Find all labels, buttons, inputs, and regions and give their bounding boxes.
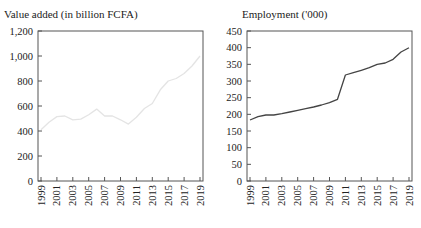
x-tick-label: 2005 [83, 185, 94, 206]
employment-chart: Employment ('000) 0501001502002503003504… [210, 0, 420, 228]
x-tick-label: 2009 [115, 185, 126, 206]
plot-frame [38, 31, 203, 181]
x-tick-label: 2007 [99, 185, 110, 206]
x-tick-label: 2011 [340, 185, 351, 206]
x-tick-label: 2003 [276, 185, 287, 206]
x-tick-label: 2017 [388, 185, 399, 206]
x-tick-label: 2011 [131, 185, 142, 206]
y-tick-label: 400 [226, 42, 242, 53]
y-tick-label: 0 [237, 176, 242, 187]
y-tick-label: 200 [17, 151, 33, 162]
y-tick-label: 250 [226, 92, 242, 103]
y-tick-label: 1,200 [9, 26, 33, 37]
x-tick-label: 2003 [67, 185, 78, 206]
y-tick-label: 450 [226, 26, 242, 37]
x-tick-label: 1999 [245, 185, 256, 206]
employment-plot: 0501001502002503003504004501999200120032… [210, 0, 421, 228]
y-tick-label: 100 [226, 142, 242, 153]
x-tick-label: 2019 [195, 185, 206, 206]
x-tick-label: 2005 [292, 185, 303, 206]
y-tick-label: 50 [232, 159, 243, 170]
y-tick-label: 200 [226, 109, 242, 120]
x-tick-label: 2017 [179, 185, 190, 206]
x-tick-label: 2013 [356, 185, 367, 206]
x-tick-label: 2015 [372, 185, 383, 206]
value-added-plot: 02004006008001,0001,20019992001200320052… [0, 0, 210, 228]
y-tick-label: 1,000 [9, 51, 33, 62]
x-tick-label: 2001 [260, 185, 271, 206]
y-tick-label: 300 [226, 76, 242, 87]
y-tick-label: 400 [17, 126, 33, 137]
y-tick-label: 800 [17, 76, 33, 87]
y-tick-label: 600 [17, 101, 33, 112]
y-tick-label: 350 [226, 59, 242, 70]
data-line [41, 56, 200, 130]
x-tick-label: 2019 [404, 185, 415, 206]
x-tick-label: 2013 [147, 185, 158, 206]
plot-frame [247, 31, 412, 181]
data-line [250, 48, 409, 120]
y-tick-label: 150 [226, 126, 242, 137]
x-tick-label: 2001 [51, 185, 62, 206]
x-tick-label: 2007 [308, 185, 319, 206]
x-tick-label: 1999 [36, 185, 47, 206]
y-tick-label: 0 [28, 176, 33, 187]
x-tick-label: 2015 [163, 185, 174, 206]
value-added-chart: Value added (in billion FCFA) 0200400600… [0, 0, 210, 228]
x-tick-label: 2009 [324, 185, 335, 206]
